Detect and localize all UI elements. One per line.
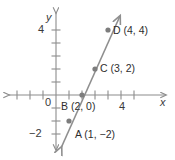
point-label-d: D (4, 4) [113, 25, 148, 36]
y-axis-label: y [46, 12, 52, 23]
y-tick-label-4: 4 [38, 24, 44, 35]
data-point-a [66, 118, 71, 123]
origin-label: 0 [45, 97, 51, 108]
x-axis-label: x [160, 97, 166, 108]
point-label-b: B (2, 0) [61, 101, 95, 112]
data-point-d [105, 27, 110, 32]
y-axis [52, 13, 61, 150]
x-tick-label-4: 4 [119, 101, 125, 112]
point-label-c: C (3, 2) [100, 63, 135, 74]
coordinate-plane-figure: y x 0 4 −2 4 D (4, 4) C (3, 2) B (2, 0) … [0, 0, 175, 160]
point-label-a: A (1, −2) [75, 129, 115, 140]
x-axis [9, 91, 166, 100]
y-tick-label-minus-2: −2 [29, 128, 42, 139]
data-point-c [92, 66, 97, 71]
data-point-b [79, 92, 84, 97]
